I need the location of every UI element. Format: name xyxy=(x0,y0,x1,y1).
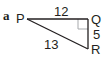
side-label-qr: 5 xyxy=(93,28,100,41)
side-label-pq: 12 xyxy=(54,5,68,18)
right-angle-marker xyxy=(78,19,88,29)
vertex-label-p: P xyxy=(16,12,25,25)
vertex-label-q: Q xyxy=(91,13,101,26)
side-label-pr: 13 xyxy=(44,38,58,51)
vertex-label-r: R xyxy=(91,43,100,56)
part-label: a xyxy=(3,9,10,22)
